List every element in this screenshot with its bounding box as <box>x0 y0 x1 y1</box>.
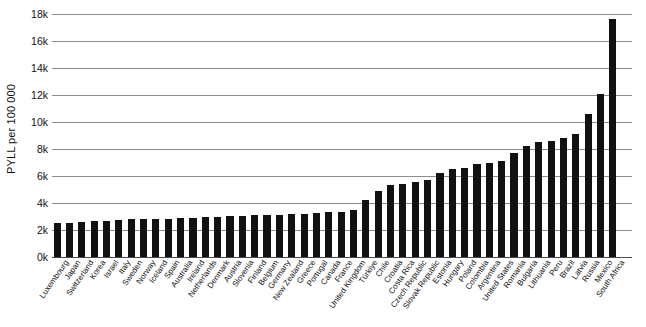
bar <box>152 219 159 257</box>
y-tick-label: 2k <box>37 225 48 236</box>
y-axis-tick-labels: 0k2k4k6k8k10k12k14k16k18k <box>22 0 50 262</box>
bar <box>103 221 110 257</box>
plot-area <box>52 0 632 258</box>
y-tick-label: 6k <box>37 171 48 182</box>
y-tick-label: 8k <box>37 144 48 155</box>
bar <box>78 222 85 257</box>
bar <box>560 138 567 257</box>
bar <box>597 94 604 257</box>
bar <box>548 141 555 257</box>
bar <box>226 216 233 257</box>
y-tick-label: 4k <box>37 198 48 209</box>
bar <box>473 164 480 257</box>
bar <box>288 214 295 257</box>
bar-series <box>52 0 632 258</box>
bar <box>436 173 443 257</box>
bar <box>338 212 345 257</box>
bar <box>115 220 122 257</box>
bar <box>177 218 184 257</box>
y-tick-label: 10k <box>31 117 48 128</box>
bar <box>412 182 419 257</box>
bar <box>572 134 579 257</box>
bar <box>461 168 468 257</box>
bar <box>189 218 196 257</box>
y-axis-title-text: PYLL per 100 000 <box>5 84 17 174</box>
bar <box>350 210 357 257</box>
bar <box>263 215 270 257</box>
bar <box>585 114 592 257</box>
bar <box>325 212 332 257</box>
y-tick-label: 12k <box>31 90 48 101</box>
bar <box>424 180 431 257</box>
bar <box>239 216 246 257</box>
bar <box>140 219 147 257</box>
y-tick-label: 14k <box>31 63 48 74</box>
bar <box>54 223 61 257</box>
bar <box>202 217 209 257</box>
bar <box>449 169 456 257</box>
bar <box>251 215 258 257</box>
bar <box>214 217 221 257</box>
y-tick-label: 0k <box>37 252 48 263</box>
bar <box>510 153 517 257</box>
pyll-bar-chart: PYLL per 100 000 0k2k4k6k8k10k12k14k16k1… <box>0 0 646 327</box>
bar <box>375 191 382 257</box>
bar <box>399 184 406 257</box>
bar <box>301 214 308 257</box>
bar <box>486 163 493 258</box>
bar <box>535 142 542 257</box>
y-axis-title: PYLL per 100 000 <box>0 0 22 258</box>
bar <box>128 219 135 257</box>
y-tick-label: 16k <box>31 36 48 47</box>
x-axis-tick-labels: LuxembourgJapanSwitzerlandKoreaIsraelIta… <box>52 259 646 327</box>
bar <box>609 19 616 257</box>
bar <box>276 215 283 257</box>
bar <box>498 161 505 257</box>
bar <box>66 223 73 257</box>
bar <box>91 221 98 257</box>
y-tick-label: 18k <box>31 9 48 20</box>
bar <box>523 146 530 257</box>
bar <box>313 213 320 257</box>
bar <box>362 200 369 257</box>
bar <box>387 185 394 257</box>
bar <box>165 219 172 257</box>
